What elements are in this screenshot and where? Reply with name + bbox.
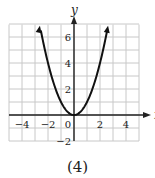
x-tick-label: 2 xyxy=(97,119,103,130)
curve-arrow-icons xyxy=(36,26,110,33)
y-tick-label: 4 xyxy=(65,58,71,69)
y-axis-arrow-icon xyxy=(71,16,77,24)
curve-arrow-icon xyxy=(104,26,110,33)
y-tick-label: −2 xyxy=(56,136,71,147)
curve-arrow-icon xyxy=(36,26,42,33)
chart-plot: xy −4−2024−2246 xyxy=(0,0,155,158)
x-tick-label: 4 xyxy=(123,119,129,130)
y-axis-label: y xyxy=(70,3,78,17)
x-tick-label: −4 xyxy=(15,119,30,130)
x-tick-label: −2 xyxy=(41,119,56,130)
y-tick-label: 6 xyxy=(65,32,71,43)
figure-caption: (4) xyxy=(0,158,155,176)
y-tick-label: 2 xyxy=(65,84,71,95)
x-axis-arrow-icon xyxy=(143,112,151,118)
x-tick-label: 0 xyxy=(65,119,71,130)
x-axis-label: x xyxy=(154,108,155,122)
